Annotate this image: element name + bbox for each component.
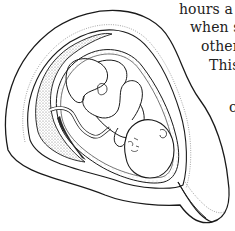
fetus-head bbox=[125, 120, 175, 178]
fetus-in-uterus-illustration bbox=[0, 0, 235, 231]
